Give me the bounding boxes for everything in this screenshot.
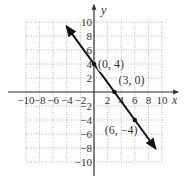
x-axis-label: x	[171, 93, 178, 107]
x-tick-label: −8	[34, 94, 46, 106]
point-label: (6, −4)	[105, 123, 138, 137]
data-point	[92, 62, 96, 66]
y-tick-label: 8	[87, 30, 93, 42]
y-tick-label: −6	[80, 128, 92, 140]
y-tick-label: −2	[80, 100, 92, 112]
y-tick-label: −8	[80, 142, 92, 154]
x-tick-label: 6	[132, 94, 138, 106]
data-point	[133, 118, 137, 122]
y-axis-label: y	[100, 3, 107, 17]
y-tick-label: 2	[87, 72, 93, 84]
point-label: (3, 0)	[118, 73, 144, 87]
point-label: (0, 4)	[98, 57, 124, 71]
y-tick-label: −10	[75, 156, 93, 168]
line-graph: xy−10−8−6−4−2246810108642−2−4−6−8−10(0, …	[0, 0, 184, 182]
data-point	[112, 90, 116, 94]
x-tick-label: −10	[17, 94, 35, 106]
y-tick-label: 10	[81, 16, 93, 28]
x-tick-label: 2	[105, 94, 111, 106]
x-tick-label: 10	[157, 94, 169, 106]
x-tick-label: −4	[61, 94, 73, 106]
x-tick-label: −6	[47, 94, 59, 106]
y-tick-label: −4	[80, 114, 92, 126]
x-tick-label: 8	[146, 94, 152, 106]
